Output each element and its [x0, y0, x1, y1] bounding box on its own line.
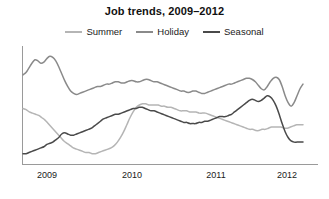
- x-tick-label-2011: 2011: [206, 170, 225, 181]
- series-lines: [23, 56, 303, 154]
- series-line-summer: [23, 104, 303, 154]
- series-line-seasonal: [23, 96, 303, 154]
- series-line-holiday: [23, 56, 303, 106]
- chart-container: Job trends, 2009–2012 Summer Holiday Sea…: [0, 0, 329, 199]
- x-tick-label-2012: 2012: [277, 170, 297, 181]
- x-tick-label-2010: 2010: [122, 170, 142, 181]
- x-tick-label-2009: 2009: [37, 170, 57, 181]
